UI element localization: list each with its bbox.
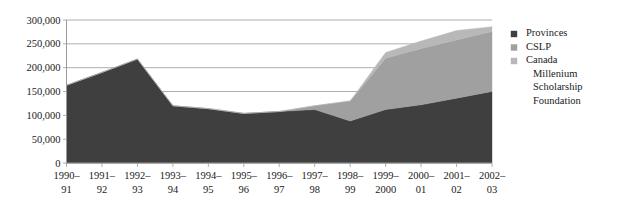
x-tick-label: 1995– (231, 170, 258, 181)
legend-swatch-0 (511, 31, 517, 37)
y-axis-tick-labels: 050,000100,000150,000200,000250,000300,0… (26, 15, 60, 169)
x-tick-label: 1993– (160, 170, 187, 181)
y-tick-label: 0 (55, 158, 60, 169)
x-tick-label: 93 (132, 184, 143, 195)
x-tick-label: 1991– (89, 170, 116, 181)
y-tick-label: 150,000 (26, 86, 60, 97)
x-tick-label: 1994– (195, 170, 222, 181)
legend-label-2: Millenium (533, 68, 577, 79)
legend-label-1: CSLP (526, 41, 551, 52)
y-tick-label: 300,000 (26, 15, 60, 26)
x-tick-label: 2002– (479, 170, 506, 181)
x-tick-label: 02 (451, 184, 462, 195)
x-tick-label: 99 (345, 184, 356, 195)
y-tick-label: 250,000 (26, 38, 60, 49)
chart-legend: ProvincesCSLPCanadaMilleniumScholarshipF… (511, 27, 583, 106)
stacked-area-chart: 050,000100,000150,000200,000250,000300,0… (0, 0, 623, 209)
x-tick-label: 95 (203, 184, 214, 195)
legend-label-2: Scholarship (533, 81, 583, 92)
x-tick-label: 1998– (337, 170, 364, 181)
x-tick-label: 1996– (266, 170, 293, 181)
legend-label-2: Foundation (533, 95, 582, 106)
x-tick-label: 96 (239, 184, 250, 195)
x-tick-label: 94 (168, 184, 179, 195)
chart-figure: 050,000100,000150,000200,000250,000300,0… (0, 0, 623, 209)
x-tick-label: 2000 (375, 184, 396, 195)
x-tick-label: 97 (274, 184, 285, 195)
x-tick-label: 03 (487, 184, 498, 195)
x-tick-label: 92 (97, 184, 108, 195)
x-tick-label: 91 (61, 184, 72, 195)
area-series (67, 27, 493, 163)
legend-swatch-1 (511, 45, 517, 51)
x-tick-label: 1992– (124, 170, 151, 181)
y-tick-label: 100,000 (26, 110, 60, 121)
x-tick-label: 2001– (443, 170, 470, 181)
y-tick-label: 200,000 (26, 62, 60, 73)
legend-label-2: Canada (526, 54, 558, 65)
legend-label-0: Provinces (526, 27, 567, 38)
x-tick-label: 1990– (53, 170, 80, 181)
x-axis-tick-labels: 1990–911991–921992–931993–941994–951995–… (53, 170, 506, 195)
y-tick-label: 50,000 (32, 134, 61, 145)
x-tick-label: 2000– (408, 170, 435, 181)
x-tick-label: 1999– (373, 170, 400, 181)
x-tick-label: 98 (309, 184, 320, 195)
x-tick-label: 01 (416, 184, 427, 195)
x-tick-label: 1997– (302, 170, 329, 181)
legend-swatch-2 (511, 58, 517, 64)
